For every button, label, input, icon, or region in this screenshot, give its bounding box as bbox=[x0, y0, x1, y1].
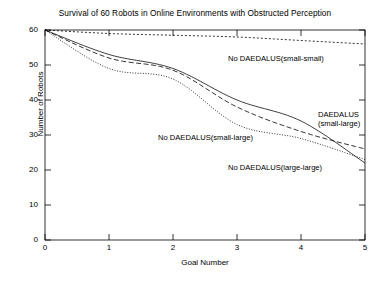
chart-canvas bbox=[0, 0, 390, 292]
series-line-0 bbox=[45, 30, 365, 44]
annotation-no-daedalus-small-large: No DAEDALUS(small-large) bbox=[158, 133, 253, 143]
annotation-daedalus-small-large-line2: (small-large) bbox=[318, 119, 360, 129]
series-line-2 bbox=[45, 30, 365, 149]
series-layer bbox=[45, 30, 365, 163]
series-line-1 bbox=[45, 30, 365, 163]
annotation-no-daedalus-large-large: No DAEDALUS(large-large) bbox=[228, 163, 322, 173]
annotation-no-daedalus-small-small: No DAEDALUS(small-small) bbox=[228, 54, 324, 64]
chart-figure: Survival of 60 Robots in Online Environm… bbox=[0, 0, 390, 292]
